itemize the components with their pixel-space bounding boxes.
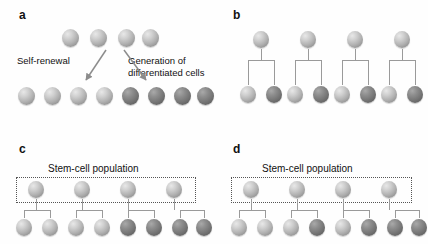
panel-b-child-cell	[407, 86, 423, 103]
panel-a-bottom-cell	[148, 87, 165, 105]
panel-d-child-cell	[387, 219, 403, 236]
panel-c-stem-cell	[74, 181, 90, 198]
panel-c-child-cell	[146, 219, 162, 236]
self-renewal-arrow	[86, 50, 106, 80]
panel-c-child-cell	[94, 219, 110, 236]
panel-c-population-label: Stem-cell population	[48, 163, 139, 174]
stem-cell-figure: a Self-renewal Generation of differentia…	[0, 0, 428, 244]
panel-c-stem-cell	[166, 181, 182, 198]
panel-c-child-cell	[42, 219, 58, 236]
panel-b-parent-cell	[347, 31, 363, 48]
panel-c-stem-cell	[120, 181, 136, 198]
self-renewal-label: Self-renewal	[17, 55, 70, 67]
panel-d-population-label: Stem-cell population	[262, 163, 353, 174]
panel-c-stem-cell	[28, 181, 44, 198]
panel-d-stem-cell	[289, 181, 305, 198]
panel-d-child-cell	[283, 219, 299, 236]
panel-a-label: a	[19, 8, 26, 22]
panel-a-bottom-cell	[70, 87, 87, 105]
panel-d-child-cell	[411, 219, 427, 236]
panel-b-child-cell	[266, 86, 282, 103]
panel-a-bottom-cell	[174, 87, 191, 105]
panel-d-stem-cell	[381, 181, 397, 198]
panel-b-child-cell	[360, 86, 376, 103]
panel-a-bottom-cell	[44, 87, 61, 105]
panel-d-label: d	[233, 142, 240, 156]
panel-b-label: b	[233, 8, 240, 22]
panel-c-label: c	[19, 142, 26, 156]
panel-b-parent-cell	[300, 31, 316, 48]
panel-c-child-cell	[196, 219, 212, 236]
panel-b-child-cell	[313, 86, 329, 103]
panel-b-child-cell	[240, 86, 256, 103]
panel-a-top-cell	[118, 29, 135, 47]
panel-a-bottom-cell	[18, 87, 35, 105]
panel-b-child-cell	[381, 86, 397, 103]
panel-a-bottom-cell	[122, 87, 139, 105]
panel-d-child-cell	[335, 219, 351, 236]
panel-c-child-cell	[68, 219, 84, 236]
panel-c-child-cell	[120, 219, 136, 236]
panel-b-connectors	[248, 49, 415, 85]
panel-c-child-cell	[172, 219, 188, 236]
panel-b-parent-cell	[394, 31, 410, 48]
panel-b-child-cell	[334, 86, 350, 103]
panel-a-top-cell	[142, 29, 159, 47]
panel-b-child-cell	[287, 86, 303, 103]
panel-a-bottom-cell	[96, 87, 113, 105]
panel-d-stem-cell	[243, 181, 259, 198]
panel-a-top-cell	[62, 29, 79, 47]
differentiation-label-line2: differentiated cells	[128, 67, 204, 79]
panel-d-child-cell	[309, 219, 325, 236]
panel-a-bottom-cell	[197, 87, 214, 105]
panel-d-child-cell	[231, 219, 247, 236]
panel-d-child-cell	[361, 219, 377, 236]
panel-c-child-cell	[16, 219, 32, 236]
panel-b-parent-cell	[253, 31, 269, 48]
differentiation-label-line1: Generation of	[128, 55, 186, 67]
panel-d-child-cell	[257, 219, 273, 236]
panel-d-stem-cell	[335, 181, 351, 198]
panel-a-top-cell	[90, 29, 107, 47]
